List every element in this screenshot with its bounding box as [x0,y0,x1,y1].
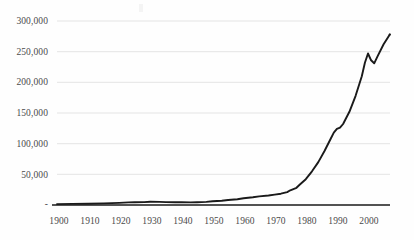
x-tick-label: 1970 [259,216,293,226]
y-tick-label: 300,000 [0,16,48,26]
line-chart-plot [0,0,414,240]
x-tick-label: 1930 [135,216,169,226]
x-tick-label: 1910 [73,216,107,226]
y-tick-label: 50,000 [0,170,48,180]
x-tick-label: 1980 [290,216,324,226]
chart-container: 300,000 250,000 200,000 150,000 100,000 … [0,0,414,240]
gridlines [57,21,390,174]
y-tick-label: 100,000 [0,139,48,149]
data-series-line [57,35,390,205]
y-tick-label: 150,000 [0,108,48,118]
x-tick-label: 1960 [228,216,262,226]
scan-artifact [139,4,143,12]
x-tick-label: 1900 [42,216,76,226]
y-tick-label: 250,000 [0,47,48,57]
series-end-point [389,33,391,35]
x-tick-label: 1950 [197,216,231,226]
y-tick-label-zero: - [0,199,48,209]
x-tick-label: 1940 [166,216,200,226]
x-tick-label: 1920 [104,216,138,226]
x-tick-label: 2000 [352,216,386,226]
x-tick-label: 1990 [321,216,355,226]
y-tick-label: 200,000 [0,77,48,87]
